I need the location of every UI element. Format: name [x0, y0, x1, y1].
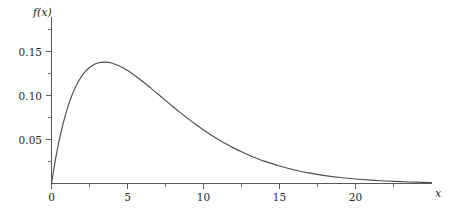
- chart-figure: 0.05 0.10 0.15 0 5 10 15 20 f(x) x: [0, 0, 453, 211]
- x-ticklabel-3: 15: [273, 191, 286, 203]
- y-ticklabel-1: 0.10: [19, 90, 42, 102]
- x-ticklabel-4: 20: [349, 191, 362, 203]
- x-ticklabel-1: 5: [124, 191, 131, 203]
- y-axis-label: f(x): [32, 6, 52, 19]
- x-ticklabel-0: 0: [48, 191, 55, 203]
- x-axis-label: x: [435, 187, 442, 200]
- density-plot: 0.05 0.10 0.15 0 5 10 15 20 f(x) x: [0, 0, 453, 211]
- y-ticklabel-0: 0.05: [19, 134, 42, 146]
- x-ticklabel-2: 10: [197, 191, 210, 203]
- y-ticklabel-2: 0.15: [19, 46, 42, 58]
